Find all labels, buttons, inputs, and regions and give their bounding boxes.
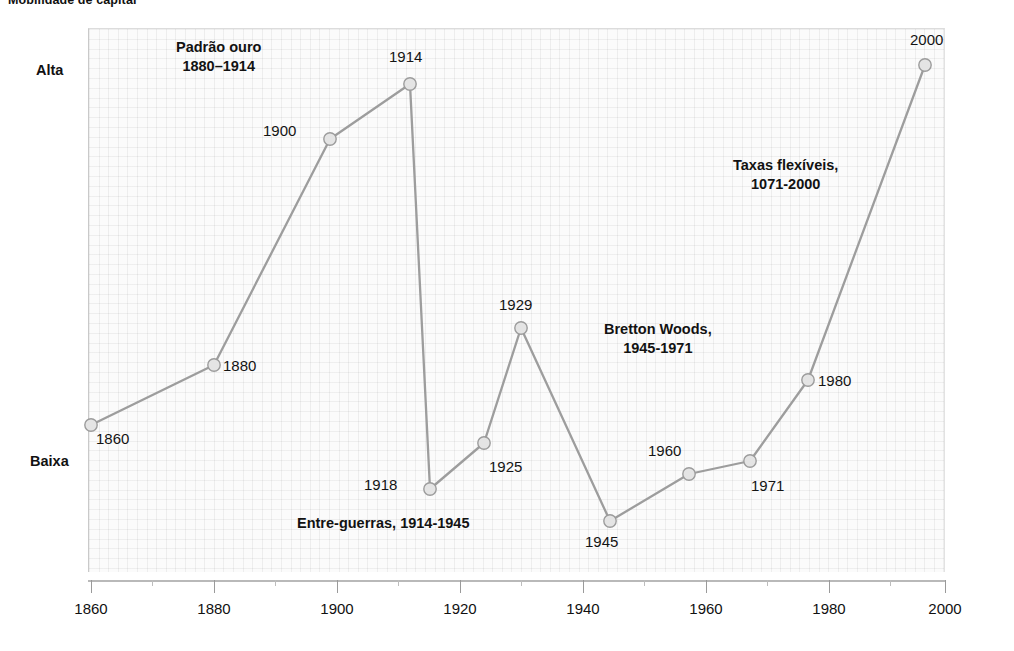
annotation-bretton-woods-line1: Bretton Woods,	[604, 320, 712, 339]
x-tick-major-1980	[829, 580, 830, 593]
page-title: Mobilidade de capital	[8, 0, 137, 7]
y-axis-label-alta: Alta	[36, 62, 63, 78]
y-axis-label-baixa: Baixa	[30, 453, 69, 469]
x-tick-minor-3	[521, 580, 522, 586]
annotation-flexible-rates-line2: 1071-2000	[733, 175, 838, 194]
point-label-1860: 1860	[96, 430, 129, 447]
x-tick-minor-6	[890, 580, 891, 586]
x-tick-label-2000: 2000	[928, 600, 961, 617]
annotation-interwar-line1: Entre-guerras, 1914-1945	[297, 514, 470, 533]
x-tick-major-1920	[460, 580, 461, 593]
point-label-1980: 1980	[818, 372, 851, 389]
x-tick-label-1860: 1860	[74, 600, 107, 617]
x-tick-minor-1	[275, 580, 276, 586]
annotation-flexible-rates-line1: Taxas flexíveis,	[733, 156, 838, 175]
annotation-bretton-woods: Bretton Woods, 1945-1971	[604, 320, 712, 357]
x-tick-major-1960	[706, 580, 707, 593]
point-label-1960: 1960	[648, 442, 681, 459]
x-tick-label-1940: 1940	[566, 600, 599, 617]
x-tick-label-1960: 1960	[689, 600, 722, 617]
point-label-1900: 1900	[263, 122, 296, 139]
annotation-gold-standard-line2: 1880–1914	[176, 57, 261, 76]
x-tick-major-1940	[583, 580, 584, 593]
annotation-interwar: Entre-guerras, 1914-1945	[297, 514, 470, 533]
x-tick-label-1920: 1920	[443, 600, 476, 617]
annotation-bretton-woods-line2: 1945-1971	[604, 339, 712, 358]
x-tick-major-1880	[214, 580, 215, 593]
annotation-gold-standard-line1: Padrão ouro	[176, 38, 261, 57]
x-tick-major-1860	[91, 580, 92, 593]
point-label-1929: 1929	[499, 296, 532, 313]
x-tick-minor-0	[152, 580, 153, 586]
point-label-1945: 1945	[585, 533, 618, 550]
x-tick-minor-2	[398, 580, 399, 586]
point-label-1880: 1880	[223, 357, 256, 374]
x-tick-major-2000	[945, 580, 946, 593]
x-tick-minor-5	[767, 580, 768, 586]
annotation-flexible-rates: Taxas flexíveis, 1071-2000	[733, 156, 838, 193]
x-tick-major-1900	[337, 580, 338, 593]
x-axis-line	[88, 580, 946, 582]
point-label-1925: 1925	[489, 458, 522, 475]
point-label-1914: 1914	[389, 48, 422, 65]
point-label-1918: 1918	[364, 476, 397, 493]
point-label-2000: 2000	[910, 31, 943, 48]
annotation-gold-standard: Padrão ouro 1880–1914	[176, 38, 261, 75]
point-label-1971: 1971	[751, 477, 784, 494]
x-tick-label-1980: 1980	[812, 600, 845, 617]
x-tick-minor-4	[644, 580, 645, 586]
x-tick-label-1880: 1880	[197, 600, 230, 617]
x-tick-label-1900: 1900	[320, 600, 353, 617]
